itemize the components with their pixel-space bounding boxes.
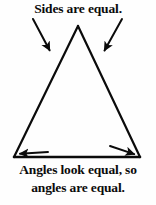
caption-angles-look-equal: Angles look equal, so xyxy=(0,163,156,177)
arrow-to-bottom-left-angle xyxy=(20,152,48,154)
arrow-to-left-side xyxy=(33,19,50,50)
figure-container: Sides are equal. Angles look equal, so a… xyxy=(0,0,156,205)
triangle-right-side xyxy=(78,26,140,157)
triangle-left-side xyxy=(14,26,78,157)
arrow-to-right-side xyxy=(105,19,123,50)
caption-angles-are-equal: angles are equal. xyxy=(0,181,156,195)
arrow-to-bottom-right-angle xyxy=(110,146,134,154)
